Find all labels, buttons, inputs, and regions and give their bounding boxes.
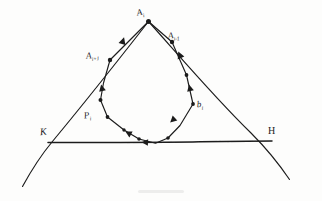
vertex-dot xyxy=(122,128,125,131)
vertex-dot xyxy=(137,137,141,141)
vertex-dot xyxy=(146,19,151,24)
vertex-dot xyxy=(99,98,103,102)
caption-smudge xyxy=(138,190,184,193)
label-next-subscript: i+1 xyxy=(91,55,99,62)
label-endpoint-h: H xyxy=(268,126,275,136)
vertex-dot xyxy=(106,115,110,119)
arrowhead-icon xyxy=(186,84,194,92)
vertex-dot xyxy=(108,58,112,62)
arrowhead-icon xyxy=(168,116,177,125)
polygon-vertex-dots xyxy=(99,19,195,141)
vertex-dot xyxy=(185,73,189,77)
polygon-direction-arrowheads xyxy=(98,36,194,146)
vertex-dot xyxy=(166,136,170,140)
right-wedge-line xyxy=(149,22,290,180)
label-prev-subscript: i-1 xyxy=(173,35,179,42)
label-endpoint-k: K xyxy=(39,127,47,138)
label-point-bi: bi xyxy=(197,100,204,112)
label-b-subscript: i xyxy=(201,105,203,111)
figure-canvas: Ai Ai-1 Ai+1 Pi bi K H xyxy=(0,0,322,201)
label-vertex-ai-plus-1: Ai+1 xyxy=(85,50,99,63)
label-point-pi: Pi xyxy=(83,111,91,123)
geometry-drawing xyxy=(0,0,322,201)
label-vertex-ai-minus-1: Ai-1 xyxy=(167,30,179,43)
left-wedge-line xyxy=(23,22,149,187)
vertex-dot xyxy=(191,102,195,106)
